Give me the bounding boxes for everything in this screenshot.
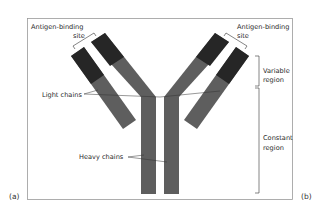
constant-region-label-line1: Constant <box>263 134 293 142</box>
antibody-diagram: Antigen-binding site Antigen-binding sit… <box>0 0 316 211</box>
antigen-site-right-label-line1: Antigen-binding <box>237 23 290 31</box>
antigen-site-right-label-line2: site <box>237 32 249 40</box>
light-chains-label: Light chains <box>42 91 82 99</box>
antigen-site-left-label-line1: Antigen-binding <box>31 23 84 31</box>
constant-region-bracket <box>255 88 259 193</box>
heavy-chain-stems <box>141 97 179 194</box>
antigen-site-left-label-line2: site <box>73 32 85 40</box>
heavy-chain-stem-left <box>141 97 156 194</box>
panel-label-a: (a) <box>9 192 20 201</box>
diagram-frame <box>28 19 293 200</box>
variable-region-bracket <box>255 56 259 86</box>
variable-region-label-line2: region <box>263 76 284 84</box>
panel-label-b: (b) <box>301 192 312 201</box>
heavy-chain-stem-right <box>164 97 179 194</box>
light-chains-pointer-1 <box>84 90 98 94</box>
heavy-chains-label: Heavy chains <box>79 153 124 161</box>
variable-region-label-line1: Variable <box>263 67 290 75</box>
constant-region-label-line2: region <box>263 144 284 152</box>
